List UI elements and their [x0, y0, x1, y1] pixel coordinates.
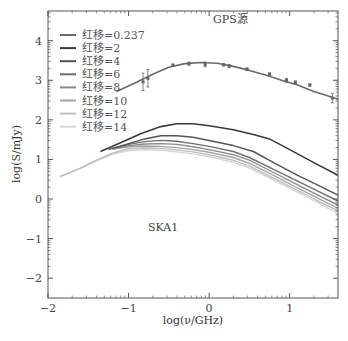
data-point	[285, 78, 288, 82]
y-axis-label: log(S/mJy)	[10, 125, 23, 183]
legend-item: 红移=10	[60, 95, 127, 108]
legend-item: 红移=2	[60, 42, 120, 55]
legend-label: 红移=8	[82, 81, 120, 94]
series-line-1	[100, 124, 338, 176]
data-point	[171, 64, 174, 67]
x-tick-label: 1	[286, 302, 293, 315]
legend-item: 红移=4	[60, 55, 120, 68]
legend-label: 红移=10	[82, 95, 127, 108]
legend-label: 红移=0.237	[82, 29, 145, 42]
x-tick-label: −1	[120, 302, 136, 315]
legend-label: 红移=12	[82, 108, 127, 121]
data-point	[308, 84, 311, 87]
legend-label: 红移=4	[82, 55, 120, 68]
x-tick-label: −2	[40, 302, 56, 315]
y-tick-label: 4	[35, 35, 42, 48]
data-point	[142, 73, 145, 90]
legend-item: 红移=6	[60, 68, 120, 81]
data-point	[245, 68, 248, 71]
data-point	[146, 70, 149, 87]
data-point	[268, 73, 271, 76]
series-line-7	[60, 150, 338, 213]
legend-label: 红移=6	[82, 68, 120, 81]
y-tick-label: 3	[35, 74, 42, 87]
series-line-0	[117, 63, 339, 100]
data-point	[294, 81, 297, 84]
data-point	[331, 93, 334, 103]
annotation-gps-source: GPS源	[213, 12, 248, 26]
y-tick-label: 1	[35, 153, 42, 166]
y-tick-label: 0	[35, 193, 42, 206]
legend-item: 红移=0.237	[60, 29, 145, 42]
data-point	[187, 62, 190, 65]
legend-item: 红移=8	[60, 81, 120, 94]
legend-item: 红移=12	[60, 108, 127, 121]
legend-label: 红移=14	[82, 121, 127, 134]
y-tick-label: 2	[35, 114, 42, 127]
annotation-ska1: SKA1	[148, 221, 178, 234]
x-axis-label: log(ν/GHz)	[163, 314, 223, 327]
data-point	[228, 64, 231, 67]
chart-canvas: −2−101−2−101234 红移=0.237红移=2红移=4红移=6红移=8…	[0, 0, 348, 341]
legend-label: 红移=2	[82, 42, 120, 55]
legend-item: 红移=14	[60, 121, 127, 134]
series-line-6	[60, 148, 338, 211]
series-line-5	[112, 146, 338, 209]
legend: 红移=0.237红移=2红移=4红移=6红移=8红移=10红移=12红移=14	[60, 29, 145, 134]
data-point	[222, 63, 225, 66]
y-tick-label: −1	[26, 233, 42, 246]
y-tick-label: −2	[26, 272, 42, 285]
